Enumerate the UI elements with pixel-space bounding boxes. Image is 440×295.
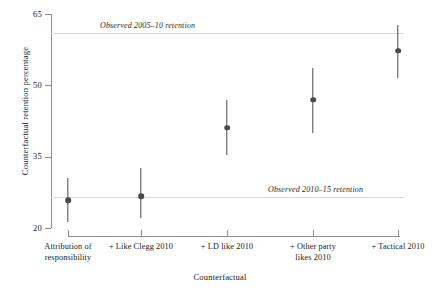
counterfactual-retention-chart: 65503520 Attribution ofresponsibility+ L… (0, 0, 440, 295)
x-axis-title: Counterfactual (0, 272, 440, 282)
x-tick-label: + Tactical 2010 (343, 241, 440, 252)
x-tick-mark (398, 230, 399, 236)
y-tick-label-wrap: 20 (12, 224, 42, 233)
reference-line (51, 33, 404, 34)
y-tick-label: 20 (16, 224, 42, 233)
observed-2010-15-retention-label: Observed 2010–15 retention (268, 185, 363, 194)
data-point (395, 48, 401, 54)
x-tick-mark (313, 230, 314, 236)
y-tick-mark (45, 228, 51, 229)
plot-area (51, 14, 404, 228)
y-axis-title: Counterfactual retention percentage (20, 11, 30, 211)
data-point (65, 197, 71, 203)
x-tick-mark (227, 230, 228, 236)
x-tick-mark (141, 230, 142, 236)
x-tick-label-line: responsibility (13, 252, 123, 263)
data-point (138, 193, 144, 199)
data-point (310, 97, 316, 103)
data-point (224, 125, 230, 131)
observed-2005-10-retention-label: Observed 2005–10 retention (100, 21, 195, 30)
x-tick-mark (68, 230, 69, 236)
x-tick-label-line: likes 2010 (258, 252, 368, 263)
x-axis-line (68, 236, 400, 237)
reference-line (51, 197, 404, 198)
x-tick-label-line: + Tactical 2010 (343, 241, 440, 252)
